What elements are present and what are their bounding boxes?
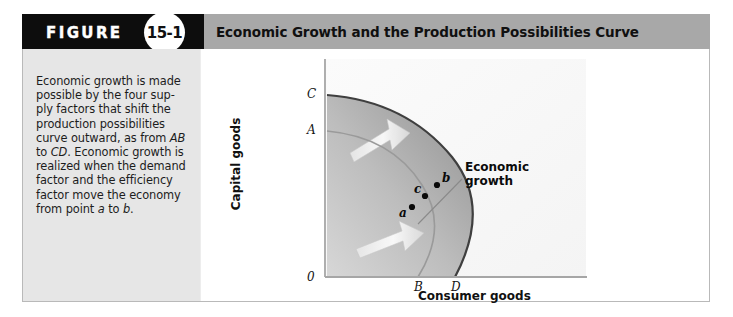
x-axis-title: Consumer goods <box>418 289 531 303</box>
point-label-b: b <box>442 171 450 185</box>
data-point-a <box>409 204 415 210</box>
caption-line: to <box>108 202 123 216</box>
caption-emphasis-a: a <box>98 202 105 216</box>
caption-line: . Economic <box>67 145 128 159</box>
figure-number-badge: 15-1 <box>144 12 185 53</box>
figure-title-text: Economic Growth and the Production Possi… <box>216 24 639 40</box>
figure-label-text: FIGURE <box>46 24 123 42</box>
caption-emphasis-b: b <box>123 202 130 216</box>
data-point-b <box>434 182 440 188</box>
economic-growth-annotation: Economic growth <box>465 161 529 188</box>
caption-line: production possibilities <box>36 117 165 131</box>
caption-divider <box>200 49 201 301</box>
y-tick-c: C <box>307 87 316 101</box>
caption-emphasis-ab: AB <box>170 131 185 145</box>
caption-line: to <box>36 145 51 159</box>
figure-container: FIGURE 15-1 Economic Growth and the Prod… <box>0 0 733 317</box>
caption-emphasis-cd: CD <box>51 145 68 159</box>
annotation-line-2: growth <box>465 175 529 189</box>
caption-line: ply factors that shift the <box>36 102 171 116</box>
x-tick-d: D <box>451 280 461 294</box>
ppc-chart: Capital goods Consumer goods C A 0 B D a… <box>206 49 710 301</box>
point-label-a: a <box>399 206 407 220</box>
figure-number-text: 15-1 <box>147 24 183 42</box>
point-label-c: c <box>414 182 421 196</box>
caption-text: Economic growth is made possible by the … <box>36 74 188 216</box>
annotation-line-1: Economic <box>465 161 529 175</box>
caption-line: . <box>130 202 134 216</box>
y-axis-title: Capital goods <box>229 118 243 211</box>
y-tick-a: A <box>307 123 316 137</box>
x-tick-b: B <box>414 280 423 294</box>
caption-line: curve outward, as from <box>36 131 166 145</box>
ppc-chart-svg <box>206 49 710 301</box>
y-tick-origin: 0 <box>307 270 315 284</box>
caption-line: Economic growth is made <box>36 74 181 88</box>
data-point-c <box>422 193 428 199</box>
caption-line: possible by the four sup- <box>36 88 175 102</box>
